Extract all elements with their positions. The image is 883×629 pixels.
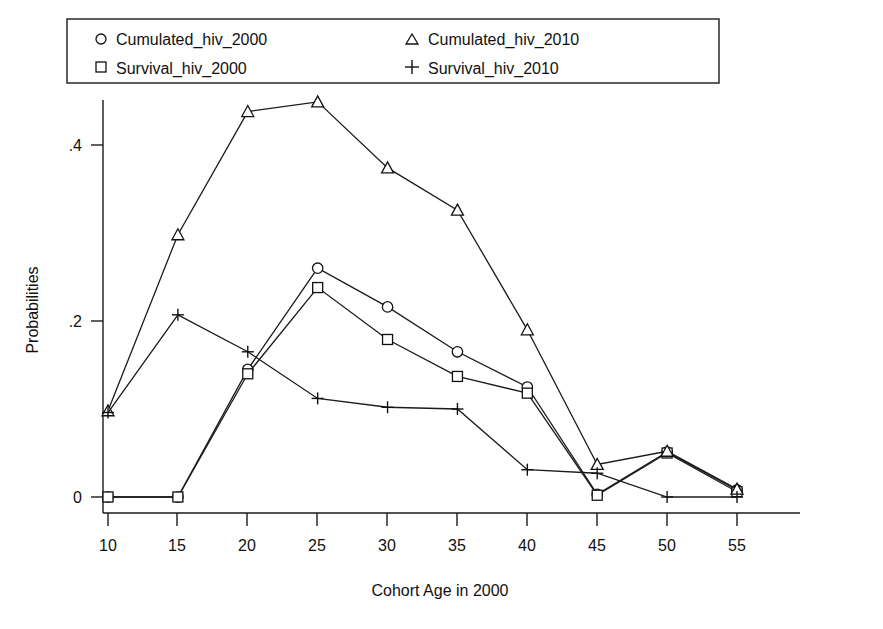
series-line <box>108 315 737 497</box>
triangle-marker <box>312 96 324 107</box>
triangle-marker <box>521 324 533 335</box>
legend-entry-cumulated-2000[interactable]: Cumulated_hiv_2000 <box>96 31 267 49</box>
series-survival-hiv-2010 <box>102 309 743 503</box>
square-marker <box>243 369 253 379</box>
plus-marker <box>312 392 324 404</box>
legend: Cumulated_hiv_2000 Cumulated_hiv_2010 Su… <box>67 19 719 83</box>
circle-marker <box>382 302 392 312</box>
x-tick-group: 10 15 20 25 30 35 40 45 50 55 <box>99 513 746 554</box>
chart-figure: 0 .2 .4 10 15 20 25 30 35 40 45 50 55 <box>0 0 883 629</box>
plus-marker <box>242 346 254 358</box>
series-line <box>108 268 737 497</box>
circle-marker <box>452 347 462 357</box>
y-tick-group: 0 .2 .4 <box>69 137 103 506</box>
x-tick-label-5: 35 <box>448 537 466 554</box>
square-marker <box>522 388 532 398</box>
plus-marker <box>382 401 394 413</box>
triangle-marker <box>451 204 463 215</box>
legend-label-0: Cumulated_hiv_2000 <box>116 31 267 49</box>
x-tick-label-6: 40 <box>518 537 536 554</box>
series-line <box>108 102 737 489</box>
legend-label-1: Cumulated_hiv_2010 <box>428 31 579 49</box>
x-tick-label-9: 55 <box>728 537 746 554</box>
square-icon <box>96 62 106 72</box>
square-marker <box>592 490 602 500</box>
x-tick-label-4: 30 <box>378 537 396 554</box>
plus-marker <box>102 407 114 419</box>
series-survival-hiv-2000 <box>103 283 742 502</box>
plus-marker <box>172 309 184 321</box>
probabilities-line-chart: 0 .2 .4 10 15 20 25 30 35 40 45 50 55 <box>0 0 883 629</box>
legend-entry-cumulated-2010[interactable]: Cumulated_hiv_2010 <box>406 31 579 49</box>
x-tick-label-3: 25 <box>308 537 326 554</box>
x-tick-label-1: 15 <box>168 537 186 554</box>
legend-entry-survival-2010[interactable]: Survival_hiv_2010 <box>405 60 559 78</box>
legend-entry-survival-2000[interactable]: Survival_hiv_2000 <box>96 60 247 78</box>
series-layer <box>102 96 743 503</box>
series-line <box>108 288 737 497</box>
circle-icon <box>96 34 106 44</box>
square-marker <box>452 371 462 381</box>
x-tick-label-7: 45 <box>588 537 606 554</box>
y-tick-label-2: .4 <box>69 137 82 154</box>
y-tick-label-0: 0 <box>73 489 82 506</box>
circle-marker <box>312 263 322 273</box>
plus-marker <box>661 491 673 503</box>
square-marker <box>313 283 323 293</box>
x-tick-label-2: 20 <box>238 537 256 554</box>
legend-label-3: Survival_hiv_2010 <box>428 60 559 78</box>
y-axis-title: Probabilities <box>24 266 41 353</box>
x-axis-title: Cohort Age in 2000 <box>372 582 509 599</box>
x-tick-label-8: 50 <box>658 537 676 554</box>
axes-group <box>103 100 800 513</box>
legend-label-2: Survival_hiv_2000 <box>116 60 247 78</box>
square-marker <box>103 492 113 502</box>
y-tick-label-1: .2 <box>69 313 82 330</box>
series-cumulated-hiv-2010 <box>102 96 743 494</box>
triangle-marker <box>172 229 184 240</box>
square-marker <box>173 492 183 502</box>
x-tick-label-0: 10 <box>99 537 117 554</box>
square-marker <box>383 334 393 344</box>
